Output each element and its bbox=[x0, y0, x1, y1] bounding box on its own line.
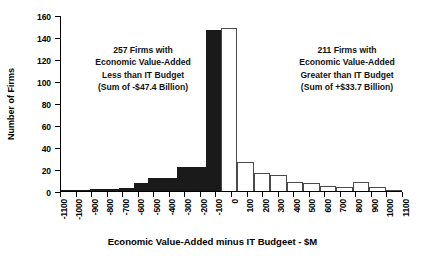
x-tick-label--200: -200 bbox=[199, 199, 209, 215]
bar-1000 bbox=[386, 190, 403, 191]
x-tick-label--700: -700 bbox=[121, 199, 131, 215]
x-tick-label--500: -500 bbox=[152, 199, 162, 215]
y-axis-title: Number of Firms bbox=[4, 16, 18, 192]
x-tick-100 bbox=[247, 192, 248, 197]
y-tick-100: 100 bbox=[55, 82, 61, 83]
bar--600 bbox=[134, 183, 149, 191]
bar--1000 bbox=[76, 190, 91, 191]
annotation-left-line-2: Less than IT Budget bbox=[68, 69, 218, 81]
bar-0 bbox=[221, 28, 238, 191]
annotation-right: 211 Firms with Economic Value-Added Grea… bbox=[272, 44, 422, 94]
bar--400 bbox=[163, 178, 178, 191]
bar--700 bbox=[119, 188, 134, 191]
x-tick-label--400: -400 bbox=[167, 199, 177, 215]
bar--200 bbox=[192, 167, 207, 191]
x-tick-700 bbox=[340, 192, 341, 197]
x-tick-300 bbox=[278, 192, 279, 197]
bar--900 bbox=[90, 189, 105, 191]
x-tick-800 bbox=[355, 192, 356, 197]
bar-series bbox=[61, 16, 402, 191]
bar-700 bbox=[336, 187, 353, 191]
y-tick-label-120: 120 bbox=[37, 56, 51, 66]
x-tick-label-0: 0 bbox=[230, 199, 240, 204]
x-tick-label-300: 300 bbox=[276, 199, 286, 213]
y-tick-label-20: 20 bbox=[42, 166, 51, 176]
y-tick-80: 80 bbox=[55, 104, 61, 105]
x-tick-900 bbox=[371, 192, 372, 197]
x-tick-label-500: 500 bbox=[307, 199, 317, 213]
bar-100 bbox=[237, 162, 254, 191]
x-tick-0 bbox=[231, 192, 232, 197]
x-tick-400 bbox=[293, 192, 294, 197]
x-tick-label--300: -300 bbox=[183, 199, 193, 215]
bar--300 bbox=[177, 167, 192, 191]
histogram-figure: Number of Firms 020406080100120140160 -1… bbox=[0, 0, 425, 256]
y-tick-40: 40 bbox=[55, 148, 61, 149]
annotation-left: 257 Firms with Economic Value-Added Less… bbox=[68, 44, 218, 94]
bar-400 bbox=[287, 182, 304, 191]
bar--500 bbox=[148, 178, 163, 191]
x-axis-ticks: -1100-1000-900-800-700-600-500-400-300-2… bbox=[60, 192, 402, 198]
x-tick-label-600: 600 bbox=[323, 199, 333, 213]
y-tick-label-100: 100 bbox=[37, 78, 51, 88]
x-tick-label--100: -100 bbox=[214, 199, 224, 215]
x-tick-600 bbox=[324, 192, 325, 197]
bar-900 bbox=[369, 187, 386, 191]
bar-800 bbox=[353, 182, 370, 191]
annotation-left-line-1: Economic Value-Added bbox=[68, 56, 218, 68]
y-tick-label-160: 160 bbox=[37, 12, 51, 22]
annotation-left-line-0: 257 Firms with bbox=[68, 44, 218, 56]
x-tick--300 bbox=[184, 192, 185, 197]
x-tick--600 bbox=[138, 192, 139, 197]
x-tick-label-700: 700 bbox=[338, 199, 348, 213]
bar-600 bbox=[320, 186, 337, 192]
x-tick--800 bbox=[107, 192, 108, 197]
x-tick-label--1100: -1100 bbox=[59, 199, 69, 219]
x-tick-label-100: 100 bbox=[245, 199, 255, 213]
bar-500 bbox=[303, 183, 320, 191]
x-tick--100 bbox=[215, 192, 216, 197]
x-tick-label--900: -900 bbox=[90, 199, 100, 215]
x-axis-title: Economic Value-Added minus IT Budgeet - … bbox=[0, 236, 425, 247]
x-tick-label-400: 400 bbox=[292, 199, 302, 213]
bar-200 bbox=[254, 173, 271, 191]
y-tick-label-80: 80 bbox=[42, 100, 51, 110]
x-tick-label-200: 200 bbox=[261, 199, 271, 213]
annotation-right-line-0: 211 Firms with bbox=[272, 44, 422, 56]
x-tick-label--1000: -1000 bbox=[74, 199, 84, 220]
y-axis-title-label: Number of Firms bbox=[6, 68, 16, 140]
x-tick-label--800: -800 bbox=[105, 199, 115, 215]
x-tick--500 bbox=[153, 192, 154, 197]
y-tick-label-0: 0 bbox=[46, 188, 51, 198]
x-tick-label-1100: 1100 bbox=[401, 199, 411, 217]
y-tick-140: 140 bbox=[55, 38, 61, 39]
bar-300 bbox=[270, 175, 287, 192]
y-tick-60: 60 bbox=[55, 126, 61, 127]
y-tick-label-60: 60 bbox=[42, 122, 51, 132]
y-tick-20: 20 bbox=[55, 170, 61, 171]
bar--1100 bbox=[61, 190, 76, 191]
x-tick--1000 bbox=[76, 192, 77, 197]
x-tick--200 bbox=[200, 192, 201, 197]
y-tick-label-40: 40 bbox=[42, 144, 51, 154]
annotation-right-line-1: Economic Value-Added bbox=[272, 56, 422, 68]
x-tick--700 bbox=[122, 192, 123, 197]
y-tick-160: 160 bbox=[55, 16, 61, 17]
x-tick-label--600: -600 bbox=[136, 199, 146, 215]
annotation-right-line-2: Greater than IT Budget bbox=[272, 69, 422, 81]
y-tick-label-140: 140 bbox=[37, 34, 51, 44]
annotation-left-line-3: (Sum of -$47.4 Billion) bbox=[68, 81, 218, 93]
annotation-right-line-3: (Sum of +$33.7 Billion) bbox=[272, 81, 422, 93]
bar--800 bbox=[105, 189, 120, 191]
x-tick-label-800: 800 bbox=[354, 199, 364, 213]
x-tick--1100 bbox=[60, 192, 61, 197]
x-tick--400 bbox=[169, 192, 170, 197]
y-tick-120: 120 bbox=[55, 60, 61, 61]
x-tick-500 bbox=[309, 192, 310, 197]
x-tick-label-900: 900 bbox=[370, 199, 380, 213]
plot-area: 020406080100120140160 bbox=[60, 16, 402, 192]
x-tick-200 bbox=[262, 192, 263, 197]
x-tick-1000 bbox=[386, 192, 387, 197]
x-tick--900 bbox=[91, 192, 92, 197]
x-tick-1100 bbox=[402, 192, 403, 197]
